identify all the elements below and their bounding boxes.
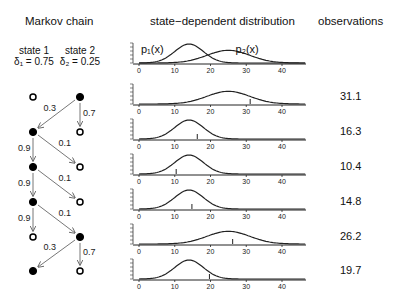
transition-prob-stay-label: 0.7: [83, 247, 96, 257]
x-tick-label: 30: [242, 213, 250, 220]
x-tick-label: 10: [171, 213, 179, 220]
distribution-panels: 010203040p₁(x)p₂(x)010203040010203040010…: [120, 30, 320, 306]
x-tick-label: 40: [278, 248, 286, 255]
distribution-panel: 010203040: [130, 154, 306, 185]
observations-header: observations: [318, 15, 383, 27]
x-tick-label: 0: [137, 67, 141, 74]
x-tick-label: 10: [171, 178, 179, 185]
markov-chain-diagram: 0.70.30.90.10.90.10.90.10.70.3: [0, 0, 130, 306]
distribution-panel: 010203040: [130, 84, 306, 115]
p1-curve: [139, 155, 305, 174]
active-state-node: [29, 198, 36, 205]
x-tick-label: 0: [137, 283, 141, 290]
x-tick-label: 0: [137, 213, 141, 220]
p1-curve: [139, 190, 305, 209]
x-tick-label: 20: [207, 143, 215, 150]
x-tick-label: 40: [278, 67, 286, 74]
inactive-state-node: [30, 94, 36, 100]
p1-curve: [139, 120, 305, 139]
x-tick-label: 40: [278, 108, 286, 115]
observation-value: 14.8: [340, 195, 361, 207]
x-tick-label: 20: [207, 213, 215, 220]
p1-label: p₁(x): [141, 43, 164, 55]
distribution-header: state−dependent distribution: [150, 15, 295, 27]
x-tick-label: 40: [278, 283, 286, 290]
observation-value: 31.1: [340, 90, 361, 102]
inactive-state-node: [30, 234, 36, 240]
p2-curve: [139, 231, 305, 244]
x-tick-label: 20: [207, 108, 215, 115]
p2-curve: [139, 91, 305, 104]
p1-curve: [139, 260, 305, 279]
distribution-panel-both: 010203040p₁(x)p₂(x): [130, 43, 306, 74]
active-state-node: [29, 128, 36, 135]
p1-curve: [139, 44, 305, 63]
x-tick-label: 10: [171, 143, 179, 150]
transition-prob-switch-label: 0.3: [44, 242, 57, 252]
inactive-state-node: [77, 164, 83, 170]
transition-prob-switch-label: 0.1: [59, 173, 72, 183]
x-tick-label: 20: [207, 248, 215, 255]
transition-prob-stay-label: 0.7: [83, 108, 96, 118]
transition-prob-stay-label: 0.9: [18, 143, 31, 153]
x-tick-label: 30: [242, 108, 250, 115]
transition-prob-switch-label: 0.1: [59, 138, 72, 148]
x-tick-label: 20: [207, 178, 215, 185]
observation-value: 10.4: [340, 160, 361, 172]
x-tick-label: 10: [171, 108, 179, 115]
active-state-node: [76, 93, 83, 100]
x-tick-label: 30: [242, 67, 250, 74]
observation-value: 26.2: [340, 230, 361, 242]
x-tick-label: 30: [242, 248, 250, 255]
x-tick-label: 10: [171, 283, 179, 290]
x-tick-label: 30: [242, 178, 250, 185]
x-tick-label: 10: [171, 248, 179, 255]
x-tick-label: 30: [242, 143, 250, 150]
p2-label: p₂(x): [236, 43, 259, 55]
observation-value: 16.3: [340, 125, 361, 137]
x-tick-label: 40: [278, 213, 286, 220]
observation-value: 19.7: [340, 264, 361, 276]
x-tick-label: 0: [137, 108, 141, 115]
inactive-state-node: [77, 199, 83, 205]
transition-prob-stay-label: 0.9: [18, 178, 31, 188]
x-tick-label: 0: [137, 248, 141, 255]
x-tick-label: 40: [278, 178, 286, 185]
distribution-panel: 010203040: [130, 189, 306, 220]
distribution-panel: 010203040: [130, 259, 306, 290]
x-tick-label: 30: [242, 283, 250, 290]
inactive-state-node: [77, 268, 83, 274]
transition-prob-stay-label: 0.9: [18, 213, 31, 223]
x-tick-label: 20: [207, 283, 215, 290]
distribution-panel: 010203040: [130, 119, 306, 150]
x-tick-label: 40: [278, 143, 286, 150]
transition-prob-switch-label: 0.1: [59, 208, 72, 218]
active-state-node: [76, 233, 83, 240]
x-tick-label: 10: [171, 67, 179, 74]
x-tick-label: 0: [137, 143, 141, 150]
x-tick-label: 0: [137, 178, 141, 185]
x-tick-label: 20: [207, 67, 215, 74]
active-state-node: [29, 163, 36, 170]
active-state-node: [29, 267, 36, 274]
distribution-panel: 010203040: [130, 224, 306, 255]
transition-prob-switch-label: 0.3: [44, 103, 57, 113]
inactive-state-node: [77, 129, 83, 135]
